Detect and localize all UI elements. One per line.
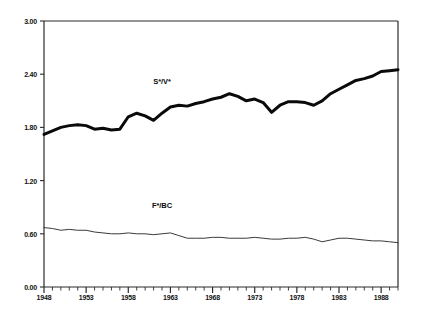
y-tick-label: 0.60 bbox=[0, 230, 37, 237]
x-tick-label: 1963 bbox=[163, 294, 178, 301]
data-series-group bbox=[44, 70, 398, 243]
series-annotation-label: S*/V* bbox=[153, 77, 170, 86]
x-tick-label: 1953 bbox=[79, 294, 94, 301]
plot-frame bbox=[44, 21, 398, 287]
y-tick-label: 0.00 bbox=[0, 284, 37, 291]
x-tick-label: 1978 bbox=[289, 294, 304, 301]
series-line-0 bbox=[44, 70, 398, 135]
x-tick-label: 1948 bbox=[37, 294, 52, 301]
y-tick-label: 1.80 bbox=[0, 124, 37, 131]
series-annotation-label: F*/BC bbox=[152, 200, 172, 209]
x-tick-label: 1958 bbox=[121, 294, 136, 301]
line-chart: 0.000.601.201.802.403.00 194819531958196… bbox=[0, 0, 430, 311]
x-tick-label: 1973 bbox=[247, 294, 262, 301]
x-tick-label: 1968 bbox=[205, 294, 220, 301]
x-tick-label: 1983 bbox=[332, 294, 347, 301]
x-axis-ticks bbox=[44, 287, 398, 293]
series-line-1 bbox=[44, 228, 398, 243]
y-tick-label: 2.40 bbox=[0, 71, 37, 78]
y-tick-label: 1.20 bbox=[0, 177, 37, 184]
y-tick-label: 3.00 bbox=[0, 18, 37, 25]
x-tick-label: 1988 bbox=[374, 294, 389, 301]
chart-canvas bbox=[0, 0, 430, 311]
